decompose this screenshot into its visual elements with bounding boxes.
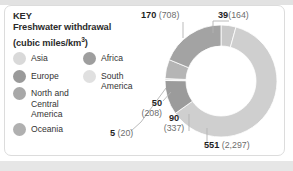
legend-column-left: Asia Europe North and Central America Oc… [13,52,85,141]
callout-50-value: 50 [152,98,162,108]
callout-5-value: 5 [110,128,115,138]
legend-swatch-north-and-central-america [13,87,26,100]
legend-heading-block: KEY Freshwater withdrawal (cubic miles/k… [13,11,149,49]
legend-label-south-america: South America [101,70,149,92]
legend-units-pre: (cubic miles/km [13,38,81,48]
callout-39-paren: (164) [228,10,249,20]
legend-item-europe[interactable]: Europe [13,70,85,84]
legend-item-oceania[interactable]: Oceania [13,123,85,137]
legend-label-north-and-central-america: North and Central America [31,87,85,120]
legend-item-asia[interactable]: Asia [13,52,85,66]
legend-label-asia: Asia [31,52,48,64]
callout-90: 90(337) [159,113,189,134]
legend-title-line1: Freshwater withdrawal [13,22,149,33]
callout-170-paren: (708) [159,10,180,20]
callout-170: 170 (708) [141,10,179,20]
legend-item-north-and-central-america[interactable]: North and Central America [13,87,85,120]
legend-swatch-asia [13,52,26,65]
callout-551-paren: (2,297) [222,140,250,150]
legend-units-post: ) [85,38,88,48]
legend: KEY Freshwater withdrawal (cubic miles/k… [13,11,149,49]
callout-551-value: 551 [204,140,219,150]
infographic-page: KEY Freshwater withdrawal (cubic miles/k… [0,0,293,171]
legend-title-line2: (cubic miles/km3) [13,34,149,50]
callout-170-value: 170 [141,10,156,20]
legend-swatch-oceania [13,123,26,136]
callout-90-value: 90 [169,113,179,123]
legend-label-africa: Africa [101,52,123,64]
callout-39-value: 39 [218,10,228,20]
callout-39: 39(164) [218,10,249,20]
callout-5-paren: (20) [118,128,134,138]
legend-column-right: Africa South America [83,52,149,95]
page-bottom-edge [0,161,293,171]
legend-item-africa[interactable]: Africa [83,52,149,66]
callout-551: 551 (2,297) [204,140,250,150]
legend-label-europe: Europe [31,70,59,82]
legend-heading: KEY [13,11,149,22]
legend-swatch-europe [13,70,26,83]
callout-90-paren: (337) [159,123,189,133]
legend-swatch-south-america [83,70,96,83]
callout-5: 5 (20) [110,128,133,138]
donut-slice-europe[interactable] [169,25,221,68]
callout-50-paren: (208) [128,108,162,118]
legend-item-south-america[interactable]: South America [83,70,149,92]
legend-label-oceania: Oceania [31,123,63,135]
legend-swatch-africa [83,52,96,65]
callout-50: 50(208) [128,98,162,119]
